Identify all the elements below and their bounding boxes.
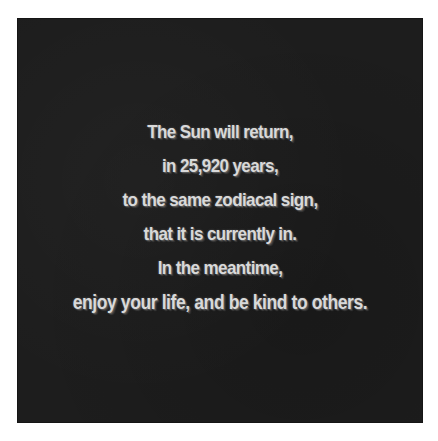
quote-line-4: that it is currently in. — [17, 215, 423, 253]
quote-line-6: enjoy your life, and be kind to others. — [17, 283, 423, 321]
dark-quote-panel: The Sun will return, in 25,920 years, to… — [17, 18, 423, 423]
quote-line-1: The Sun will return, — [17, 113, 423, 151]
quote-line-5: In the meantime, — [17, 249, 423, 287]
quote-text: The Sun will return, in 25,920 years, to… — [17, 115, 423, 319]
quote-line-2: in 25,920 years, — [17, 147, 423, 185]
quote-line-3: to the same zodiacal sign, — [17, 181, 423, 219]
